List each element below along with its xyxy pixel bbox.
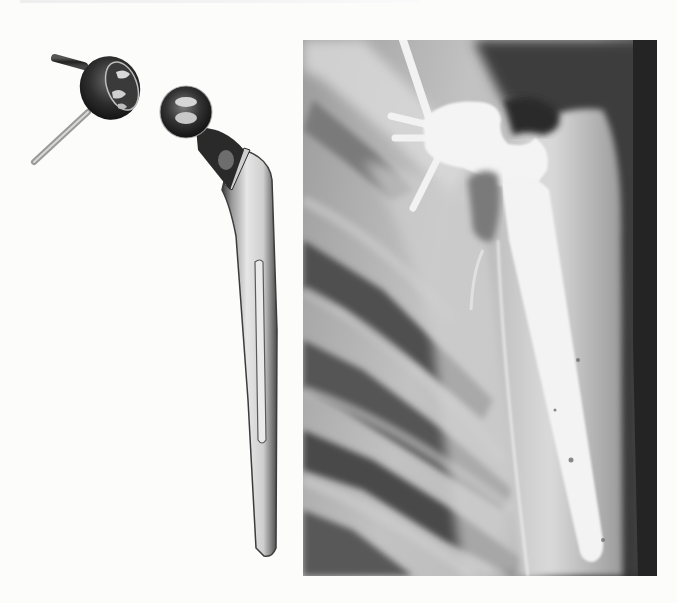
prosthesis-photo [0, 30, 300, 600]
humeral-component [160, 86, 277, 556]
shoulder-radiograph [303, 40, 657, 576]
glenoid-component [34, 48, 149, 162]
document-page [0, 0, 677, 603]
